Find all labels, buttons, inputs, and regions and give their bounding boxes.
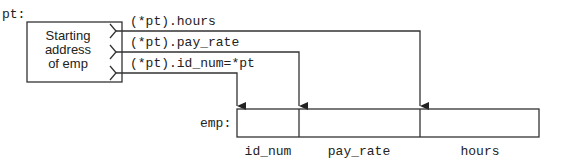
id-num-arrow — [116, 73, 237, 106]
expr-pay-rate: (*pt).pay_rate — [130, 35, 239, 50]
chevron-right-icon — [110, 45, 116, 59]
chevron-right-icon — [110, 66, 116, 80]
struct-name-label: emp: — [200, 116, 231, 131]
chevron-icons — [110, 24, 116, 80]
pointer-name-label: pt: — [2, 7, 25, 22]
pointer-box-line-3: of emp — [48, 56, 88, 71]
chevron-right-icon — [110, 24, 116, 38]
field-label-hours: hours — [460, 144, 499, 159]
struct-box — [237, 109, 539, 137]
pointer-to-struct-diagram: pt: Starting address of emp (*pt).hours … — [0, 0, 561, 163]
expr-hours: (*pt).hours — [130, 14, 216, 29]
pointer-box-line-1: Starting — [46, 28, 91, 43]
expr-id-num: (*pt).id_num=*pt — [130, 56, 255, 71]
field-label-pay-rate: pay_rate — [328, 144, 390, 159]
field-label-id-num: id_num — [245, 144, 292, 159]
pointer-box-line-2: address — [45, 42, 92, 57]
